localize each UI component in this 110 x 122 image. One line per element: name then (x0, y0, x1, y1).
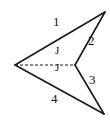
angle-label-mid-upper: J (55, 45, 59, 56)
dart-outline (15, 12, 105, 114)
angle-label-2: 2 (88, 34, 95, 47)
angle-label-4: 4 (51, 92, 58, 105)
angle-label-3: 3 (89, 73, 96, 86)
angle-label-1: 1 (53, 15, 60, 28)
angle-label-mid-lower: J (55, 62, 59, 73)
geometry-figure: 1 2 3 4 J J (0, 0, 110, 122)
